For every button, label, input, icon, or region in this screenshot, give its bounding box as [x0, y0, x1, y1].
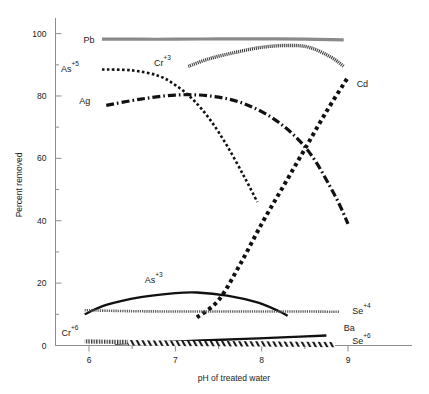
- series-annotations: PbCr+3As+5AgCdAs+3Se+4BaSe+6Cr+6: [61, 35, 371, 346]
- series-pb: [102, 39, 344, 40]
- series-cd: [197, 77, 348, 317]
- x-tick-label: 8: [259, 355, 264, 365]
- y-tick-label: 80: [37, 91, 47, 101]
- series-ag: [106, 95, 348, 224]
- series-seplus4: [85, 310, 340, 312]
- y-tick-label: 40: [37, 216, 47, 226]
- series-seplus6: [128, 343, 335, 345]
- series-label-asplus3: As+3: [145, 270, 163, 285]
- x-tick-label: 6: [87, 355, 92, 365]
- series-label-seplus6: Se+6: [352, 331, 371, 346]
- series-crplus3: [188, 45, 343, 66]
- y-axis-ticks: 020406080100: [32, 29, 61, 351]
- series-label-crplus6: Cr+6: [62, 323, 79, 338]
- series-asplus5: [102, 69, 257, 202]
- chart-container: 020406080100 6789 PbCr+3As+5AgCdAs+3Se+4…: [0, 0, 429, 394]
- y-tick-label: 60: [37, 153, 47, 163]
- series-label-pb: Pb: [83, 35, 94, 45]
- x-axis-ticks: 6789: [87, 346, 351, 365]
- series-label-cd: Cd: [357, 79, 369, 89]
- x-axis-title: pH of treated water: [198, 373, 270, 383]
- y-tick-label: 100: [32, 29, 46, 39]
- x-tick-label: 9: [346, 355, 351, 365]
- x-tick-label: 7: [173, 355, 178, 365]
- y-tick-label: 20: [37, 278, 47, 288]
- series-layer: [85, 39, 348, 345]
- y-tick-label: 0: [42, 341, 47, 351]
- series-label-asplus5: As+5: [61, 60, 79, 75]
- percent-removed-vs-ph-chart: 020406080100 6789 PbCr+3As+5AgCdAs+3Se+4…: [0, 0, 429, 394]
- series-label-crplus3: Cr+3: [154, 54, 171, 69]
- series-label-seplus4: Se+4: [352, 301, 371, 316]
- series-label-ag: Ag: [79, 96, 90, 106]
- y-axis-title: Percent removed: [14, 152, 24, 217]
- series-label-ba: Ba: [344, 323, 355, 333]
